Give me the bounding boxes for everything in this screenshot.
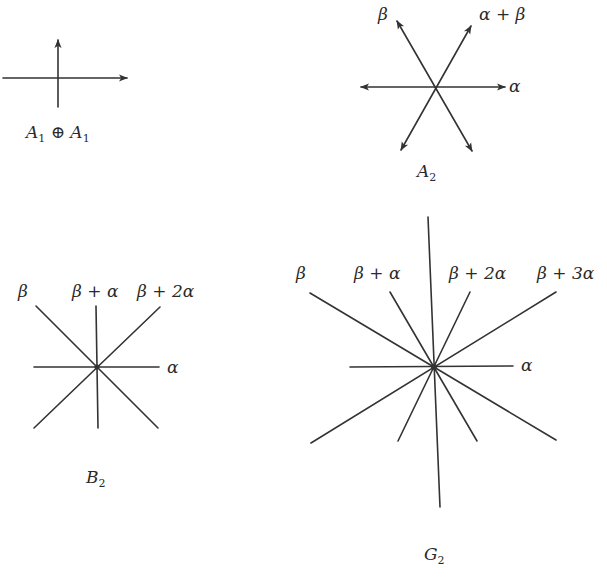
origin-dot	[431, 364, 437, 370]
diagram-label-g2: G2	[424, 546, 445, 566]
label-letter: A	[70, 122, 82, 142]
root-label-beta: β	[378, 6, 388, 23]
root-beta-arrow	[397, 21, 472, 151]
root-long-vertical-line	[428, 217, 440, 507]
root-label-beta-plus-2alpha: β + 2α	[449, 265, 506, 282]
label-subscript: 2	[99, 477, 106, 490]
root-label-beta-plus-2alpha: β + 2α	[137, 283, 194, 300]
root-label-beta: β	[296, 265, 306, 282]
label-letter: A	[417, 161, 429, 181]
root-label-beta-plus-alpha: β + α	[72, 283, 118, 300]
origin-dot	[95, 365, 100, 370]
diagram-label-b2: B2	[86, 469, 106, 489]
diagram-label-a2: A2	[417, 163, 436, 183]
root-label-alpha: α	[521, 357, 532, 374]
label-subscript: 2	[429, 171, 436, 184]
diagram-a1-plus-a1	[3, 40, 127, 107]
diagram-g2	[310, 217, 556, 507]
diagram-label-a1-plus-a1: A1 ⊕ A1	[26, 124, 90, 144]
root-label-alpha: α	[167, 359, 178, 376]
diagram-b2	[34, 306, 160, 428]
label-subscript: 1	[83, 132, 90, 145]
label-letter: A	[26, 122, 38, 142]
root-label-alpha: α	[509, 78, 520, 95]
root-label-beta-plus-3alpha: β + 3α	[537, 265, 594, 282]
label-letter: B	[86, 467, 99, 487]
root-label-alpha-plus-beta: α + β	[479, 6, 525, 23]
root-label-beta-plus-alpha: β + α	[354, 265, 400, 282]
label-subscript: 2	[438, 554, 445, 567]
direct-sum-symbol: ⊕	[45, 122, 70, 142]
root-label-beta: β	[18, 283, 28, 300]
diagram-a2	[361, 21, 505, 151]
label-letter: G	[424, 544, 438, 564]
